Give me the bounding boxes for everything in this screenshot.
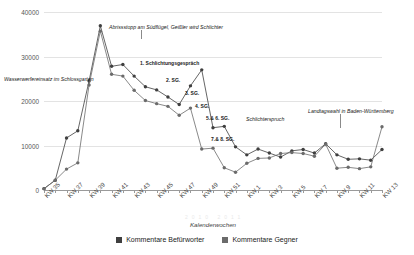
legend-swatch-icon: [222, 237, 228, 243]
data-point: [380, 125, 383, 128]
legend-swatch-icon: [116, 237, 122, 243]
y-axis-tick-label: 0: [35, 187, 39, 194]
chart-annotation: Abrissstopp am Südflügel, Geißler wird S…: [109, 24, 223, 30]
data-point: [99, 24, 102, 27]
data-point: [347, 166, 350, 169]
data-point: [99, 29, 102, 32]
data-point: [200, 147, 203, 150]
data-point: [42, 187, 45, 190]
chart-annotation: 1. Schlichtungsgespräch: [140, 60, 199, 66]
data-point: [380, 148, 383, 151]
data-point: [211, 146, 214, 149]
data-point: [132, 89, 135, 92]
data-point: [335, 166, 338, 169]
series-canvas: [44, 12, 382, 192]
data-point: [268, 156, 271, 159]
data-point: [178, 103, 181, 106]
data-point: [223, 125, 226, 128]
data-point: [301, 152, 304, 155]
data-point: [358, 157, 361, 160]
data-point: [110, 73, 113, 76]
x-axis-tick-label: KW 13: [381, 181, 399, 199]
chart-annotation: 3. SG.: [185, 90, 199, 96]
data-point: [110, 65, 113, 68]
data-point: [189, 106, 192, 109]
annotation-leader-line: [141, 30, 142, 39]
data-point: [211, 126, 214, 129]
data-point: [178, 114, 181, 117]
data-point: [144, 99, 147, 102]
data-point: [132, 74, 135, 77]
data-point: [65, 136, 68, 139]
data-point: [189, 84, 192, 87]
data-point: [369, 165, 372, 168]
chart-annotation: 2. SG.: [166, 77, 180, 83]
chart-annotation: Landtagswahl in Baden-Württemberg: [308, 108, 394, 114]
chart-annotation: 4. SG.: [195, 103, 209, 109]
legend-item[interactable]: Kommentare Befürworter: [116, 236, 204, 243]
y-axis-tick-label: 40000: [21, 9, 39, 16]
chart-root: Anzahl - Kommentare Kalenderwochen 2010 …: [0, 0, 414, 255]
data-point: [245, 153, 248, 156]
data-point: [65, 167, 68, 170]
data-point: [347, 158, 350, 161]
chart-annotation: Schlichterspruch: [246, 116, 284, 122]
data-point: [279, 152, 282, 155]
data-point: [279, 155, 282, 158]
data-point: [144, 85, 147, 88]
legend-label: Kommentare Gegner: [232, 236, 297, 243]
data-point: [54, 179, 57, 182]
y-axis-tick-label: 20000: [21, 98, 39, 105]
x-axis-title: Kalenderwochen: [44, 221, 382, 228]
data-point: [301, 148, 304, 151]
data-point: [256, 157, 259, 160]
legend-item[interactable]: Kommentare Gegner: [222, 236, 297, 243]
chart-annotation: 5.& 6. SG.: [206, 115, 229, 121]
legend-label: Kommentare Befürworter: [126, 236, 204, 243]
data-point: [313, 154, 316, 157]
chart-annotation: Wasserwerfereinsatz im Schlossgarten: [4, 76, 94, 82]
data-point: [166, 95, 169, 98]
chart-annotation: 7.& 8. SG.: [211, 136, 234, 142]
data-point: [200, 68, 203, 71]
data-point: [121, 63, 124, 66]
data-point: [324, 142, 327, 145]
data-point: [245, 162, 248, 165]
y-axis-tick-label: 30000: [21, 53, 39, 60]
data-point: [166, 105, 169, 108]
data-point: [335, 153, 338, 156]
data-point: [256, 147, 259, 150]
data-point: [121, 74, 124, 77]
chart-legend: Kommentare BefürworterKommentare Gegner: [0, 236, 414, 243]
data-point: [313, 151, 316, 154]
data-point: [234, 171, 237, 174]
data-point: [358, 167, 361, 170]
annotation-leader-line: [340, 114, 341, 128]
watermark: 2010 2011: [185, 214, 244, 220]
data-point: [155, 88, 158, 91]
data-point: [234, 145, 237, 148]
data-point: [223, 166, 226, 169]
data-point: [155, 102, 158, 105]
data-point: [87, 83, 90, 86]
data-point: [268, 151, 271, 154]
y-axis-tick-label: 10000: [21, 142, 39, 149]
data-point: [76, 161, 79, 164]
plot-area: 010000200003000040000KW 35KW 37KW 39KW 4…: [44, 12, 382, 190]
data-point: [76, 129, 79, 132]
data-point: [290, 151, 293, 154]
